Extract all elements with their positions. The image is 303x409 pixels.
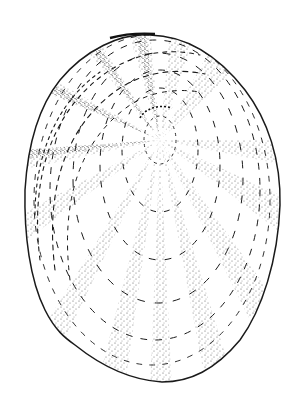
limpet-shell-drawing: [0, 0, 303, 409]
radial-rays: [20, 30, 290, 390]
shell-illustration: limpet shell, dorsal view: [0, 0, 303, 409]
